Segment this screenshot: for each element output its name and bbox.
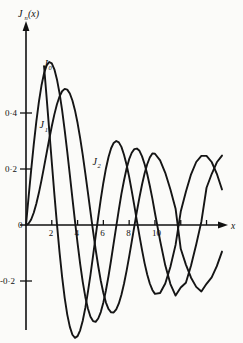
y-axis-label: J n (x)	[18, 8, 40, 21]
chart-svg: 0246810-0·20·20·4 J0J1J2 J n (x) x	[0, 0, 243, 343]
tick-group	[20, 113, 207, 281]
annotation-J1: J1	[40, 119, 48, 132]
y-axis-arrowhead	[23, 21, 30, 31]
bessel-function-chart: 0246810-0·20·20·4 J0J1J2 J n (x) x	[0, 0, 243, 343]
y-tick-label: 0·2	[5, 164, 17, 174]
x-tick-label: 0	[18, 220, 23, 230]
curve-J0	[44, 66, 222, 338]
x-tick-label: 2	[49, 228, 54, 238]
x-axis-arrowhead	[218, 222, 228, 229]
x-tick-label: 6	[100, 228, 105, 238]
curve-group	[26, 62, 222, 338]
y-tick-label: 0·4	[5, 108, 17, 118]
annotation-J2: J2	[92, 156, 101, 169]
y-axis-label-arg: (x)	[28, 8, 40, 20]
y-tick-label: -0·2	[0, 276, 15, 286]
tick-label-group: 0246810-0·20·20·4	[0, 108, 161, 286]
annotation-subscript: 1	[45, 126, 48, 133]
x-axis-label: x	[230, 221, 236, 231]
annotation-subscript: 2	[98, 162, 102, 169]
y-axis-label-base: J	[18, 8, 23, 19]
x-tick-label: 8	[126, 228, 131, 238]
